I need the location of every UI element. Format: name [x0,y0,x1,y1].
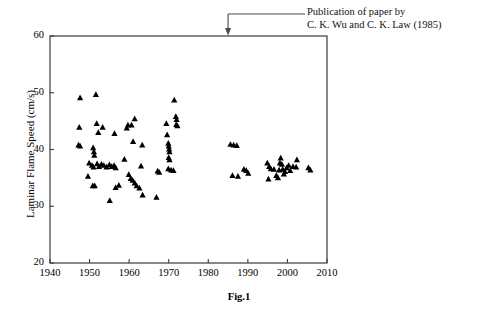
data-point-triangle [132,116,138,122]
data-point-triangle [139,192,145,198]
data-point-triangle [90,145,96,151]
y-tick-label: 30 [22,199,44,210]
data-point-triangle [278,155,284,161]
x-tick-label: 1990 [231,267,265,278]
data-point-triangle [171,97,177,103]
x-tick-label: 1940 [33,267,67,278]
data-point-triangle [163,120,169,126]
y-tick-label: 50 [22,86,44,97]
y-tick-label: 40 [22,143,44,154]
data-point-triangle [153,194,159,200]
x-tick-label: 1970 [152,267,186,278]
data-point-triangle [139,142,145,148]
figure-container: Publication of paper by C. K. Wu and C. … [0,0,478,317]
data-point-triangle [111,130,117,136]
x-tick-label: 1960 [112,267,146,278]
data-point-triangle [93,91,99,97]
annotation-line-1: Publication of paper by [307,5,441,18]
x-tick-label: 2010 [310,267,344,278]
data-point-triangle [76,124,82,130]
data-point-triangle [107,197,113,203]
data-point-triangle [116,182,122,188]
data-point-triangle [130,138,136,144]
data-point-triangle [235,173,241,179]
data-point-triangle [100,124,106,130]
annotation-leader-arrow [225,14,305,36]
data-point-triangle [85,173,91,179]
y-axis-label: Laminar Flame Speed (cm/s) [24,54,36,254]
x-tick-label: 1950 [73,267,107,278]
annotation-line-2: C. K. Wu and C. K. Law (1985) [307,18,441,31]
figure-caption: Fig.1 [0,291,478,302]
arrow-head-icon [225,28,231,36]
data-point-triangle [121,156,127,162]
data-point-triangle [77,95,83,101]
y-tick-label: 20 [22,256,44,267]
data-point-triangle [138,163,144,169]
data-point-triangle [294,156,300,162]
annotation-text: Publication of paper by C. K. Wu and C. … [307,5,441,31]
data-point-triangle [164,131,170,137]
x-tick-label: 2000 [270,267,304,278]
data-point-triangle [94,120,100,126]
data-markers [75,91,313,203]
data-point-triangle [265,176,271,182]
y-tick-label: 60 [22,29,44,40]
data-point-triangle [95,129,101,135]
x-tick-label: 1980 [191,267,225,278]
data-point-triangle [229,172,235,178]
